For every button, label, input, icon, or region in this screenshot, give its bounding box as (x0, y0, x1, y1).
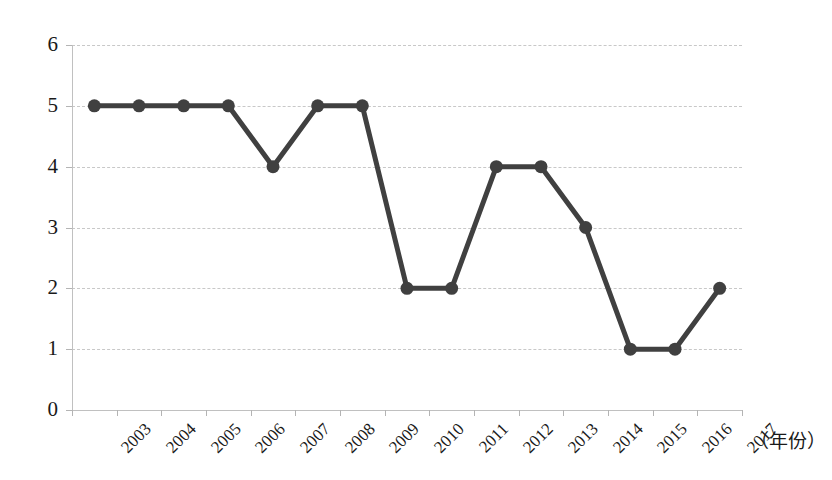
data-point-marker (177, 99, 190, 112)
data-point-marker (535, 160, 548, 173)
data-point-marker (624, 343, 637, 356)
data-point-marker (579, 221, 592, 234)
data-point-marker (267, 160, 280, 173)
data-point-marker (669, 343, 682, 356)
line-chart: 0123456 20032004200520062007200820092010… (0, 0, 832, 480)
data-point-marker (88, 99, 101, 112)
data-point-marker (445, 282, 458, 295)
data-point-marker (311, 99, 324, 112)
series-line (94, 106, 719, 349)
data-point-marker (356, 99, 369, 112)
data-point-marker (401, 282, 414, 295)
data-point-marker (222, 99, 235, 112)
data-point-marker (133, 99, 146, 112)
data-point-marker (490, 160, 503, 173)
data-point-marker (713, 282, 726, 295)
series-line-and-markers (0, 0, 832, 480)
